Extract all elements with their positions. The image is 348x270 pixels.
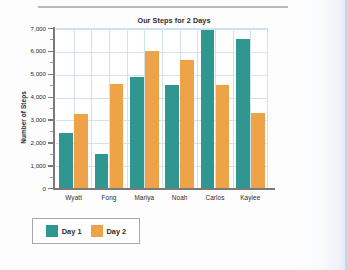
y-axis-tick-mark (48, 28, 53, 29)
plot-area-wrapper (56, 28, 268, 188)
y-axis-tick-mark (48, 142, 53, 143)
y-axis-tick-label: 6,000 (4, 47, 46, 54)
y-axis-tick-mark (48, 119, 53, 120)
bar-day-2-carlos (216, 85, 230, 188)
bar-day-2-kaylee (251, 113, 265, 188)
y-axis-tick-label: 7,000 (4, 25, 46, 32)
y-axis-tick-mark (48, 165, 53, 166)
chart-legend: Day 1 Day 2 (32, 218, 140, 244)
gridline-vertical (162, 29, 163, 189)
y-axis-tick-label: 0 (4, 185, 46, 192)
legend-label-day1: Day 1 (62, 227, 82, 236)
legend-swatch-day1-icon (46, 225, 58, 237)
bar-day-2-noah (180, 60, 194, 188)
bar-chart-figure: Our Steps for 2 Days Number of Steps 01,… (0, 10, 290, 260)
legend-item-day1: Day 1 (46, 225, 82, 237)
x-axis-tick-label-noah: Noah (160, 194, 200, 201)
plot-area (56, 28, 268, 188)
bar-day-1-fong (95, 154, 109, 188)
gridline-vertical (197, 29, 198, 189)
horizontal-rule (38, 6, 288, 8)
bar-day-2-mariya (145, 51, 159, 188)
bar-day-1-noah (165, 85, 179, 188)
legend-label-day2: Day 2 (107, 227, 127, 236)
y-axis-tick-label: 2,000 (4, 139, 46, 146)
y-axis-tick-mark (48, 188, 53, 189)
y-axis-tick-label: 4,000 (4, 93, 46, 100)
bar-day-1-carlos (201, 30, 215, 188)
y-axis-line (53, 27, 55, 189)
bar-day-2-fong (110, 84, 124, 188)
legend-swatch-day2-icon (91, 225, 103, 237)
bar-day-1-kaylee (236, 39, 250, 188)
x-axis-tick-label-wyatt: Wyatt (54, 194, 94, 201)
x-axis-tick-label-carlos: Carlos (195, 194, 235, 201)
x-axis-tick-label-fong: Fong (89, 194, 129, 201)
y-axis-minor-tick (50, 39, 53, 40)
bar-day-1-wyatt (59, 133, 73, 188)
bar-day-1-mariya (130, 77, 144, 188)
y-axis-minor-tick (50, 131, 53, 132)
legend-item-day2: Day 2 (91, 225, 127, 237)
y-axis-tick-label: 5,000 (4, 70, 46, 77)
page-right-margin (286, 0, 348, 270)
gridline-vertical (233, 29, 234, 189)
y-axis-tick-mark (48, 97, 53, 98)
y-axis-tick-label: 3,000 (4, 116, 46, 123)
y-axis-tick-mark (48, 51, 53, 52)
x-axis-tick-label-mariya: Mariya (124, 194, 164, 201)
y-axis-minor-tick (50, 85, 53, 86)
gridline-vertical (127, 29, 128, 189)
y-axis-tick-mark (48, 74, 53, 75)
gridline-vertical (91, 29, 92, 189)
x-axis-line (53, 188, 275, 190)
y-axis-minor-tick (50, 62, 53, 63)
y-axis-minor-tick (50, 154, 53, 155)
bar-day-2-wyatt (74, 114, 88, 188)
chart-title: Our Steps for 2 Days (64, 16, 284, 25)
x-axis-tick-label-kaylee: Kaylee (230, 194, 270, 201)
y-axis-minor-tick (50, 177, 53, 178)
y-axis-tick-label: 1,000 (4, 162, 46, 169)
y-axis-minor-tick (50, 108, 53, 109)
